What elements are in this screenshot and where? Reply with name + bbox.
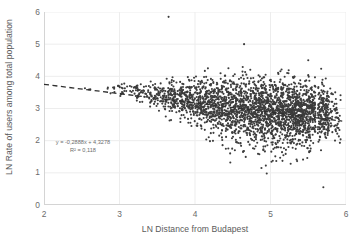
- y-axis-title: LN Rate of users among total population: [1, 0, 17, 218]
- plot-area: [44, 12, 346, 205]
- y-tick-3: 3: [18, 104, 40, 113]
- regression-equation: y = -0,2888x + 4,3278: [47, 139, 119, 147]
- x-tick-5: 5: [259, 209, 283, 219]
- regression-annotation: y = -0,2888x + 4,3278 R² = 0,118: [47, 139, 119, 154]
- scatter-chart: LN Rate of users among total population …: [0, 0, 361, 242]
- x-axis-title: LN Distance from Budapest: [44, 224, 346, 234]
- y-tick-4: 4: [18, 72, 40, 81]
- x-tick-6: 6: [334, 209, 358, 219]
- y-tick-6: 6: [18, 8, 40, 17]
- y-tick-5: 5: [18, 40, 40, 49]
- plot-svg: [44, 12, 346, 205]
- y-tick-2: 2: [18, 136, 40, 145]
- x-tick-4: 4: [183, 209, 207, 219]
- regression-r-squared: R² = 0,118: [47, 147, 119, 155]
- x-tick-3: 3: [108, 209, 132, 219]
- y-axis-tick-labels: 0123456: [18, 12, 40, 205]
- x-tick-2: 2: [32, 209, 56, 219]
- y-tick-1: 1: [18, 168, 40, 177]
- data-points: [84, 16, 342, 189]
- x-axis-tick-labels: 23456: [44, 209, 346, 221]
